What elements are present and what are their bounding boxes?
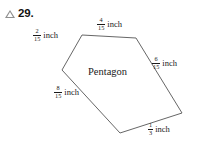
pentagon-outline <box>62 35 182 133</box>
unit-left: inch <box>64 87 79 97</box>
geometry-figure: 29. Pentagon 2 15 inch 4 15 inch 6 15 in… <box>0 0 201 144</box>
fraction-top: 4 15 <box>97 17 105 32</box>
unit-right: inch <box>162 58 177 68</box>
side-label-top-left: 2 15 inch <box>33 28 58 43</box>
unit-bottom-right: inch <box>155 124 170 134</box>
fraction-top-left: 2 15 <box>33 28 41 43</box>
side-label-left: 8 15 inch <box>54 85 79 100</box>
side-label-top: 4 15 inch <box>97 17 122 32</box>
side-label-right: 6 15 inch <box>152 56 177 71</box>
unit-top-left: inch <box>43 30 58 40</box>
fraction-right: 6 15 <box>152 56 160 71</box>
side-label-bottom-right: 1 3 inch <box>148 122 170 137</box>
fraction-left: 8 15 <box>54 85 62 100</box>
fraction-bottom-right: 1 3 <box>148 122 153 137</box>
unit-top: inch <box>107 19 122 29</box>
shape-interior-label: Pentagon <box>88 66 127 77</box>
